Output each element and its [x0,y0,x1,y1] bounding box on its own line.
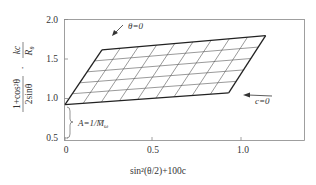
y-tick-labels: 2.0 1.5 1.0 0.5 [46,15,58,143]
y-tick-2.0: 2.0 [46,15,58,25]
y-label-frac1-den: 2sinθ [24,83,34,104]
y-tick-0.5: 0.5 [46,133,58,143]
y-tick-1.0: 1.0 [46,93,58,103]
x-tick-labels: 0 0.5 1.0 [64,145,250,155]
intercept-label: A=1/M̄ω [77,118,108,129]
y-label-frac1-num: 1+cos²θ [12,78,22,109]
grid-line [83,48,120,103]
grid-line [210,37,247,94]
x-tick-1.0: 1.0 [237,145,249,155]
theta-zero-label: θ=0 [128,21,143,31]
grid-line [65,93,229,105]
x-axis-label: sin²(θ/2)+100c [130,166,186,177]
y-label-frac2-num: kc [12,45,22,54]
c-zero-annotation: c=0 [243,93,272,107]
grid-line [65,50,102,105]
grid-line [229,36,266,93]
intercept-annotation: A=1/M̄ω [67,107,108,138]
y-axis-label: 1+cos²θ 2sinθ · kc Rθ [12,42,35,112]
y-label-frac2-den: Rθ [24,47,35,57]
zimm-grid [65,36,266,105]
x-tick-0: 0 [64,145,69,155]
zimm-plot-chart: 2.0 1.5 1.0 0.5 0 0.5 1.0 sin²(θ/2)+100c… [0,0,316,185]
y-axis [65,20,69,139]
grid-line [101,47,138,102]
grid-line [102,36,266,50]
x-tick-0.5: 0.5 [147,145,159,155]
y-tick-1.5: 1.5 [46,54,58,64]
c-zero-label: c=0 [255,96,270,106]
grid-line [120,45,157,101]
grid-line [174,40,211,96]
y-label-dot: · [18,66,28,69]
arrow-left-icon [243,93,250,98]
grid-line [192,39,229,96]
grid-line [156,42,193,98]
x-axis [65,137,241,141]
curly-brace-icon [67,107,73,138]
grid-line [138,44,175,100]
theta-zero-annotation: θ=0 [112,21,143,36]
